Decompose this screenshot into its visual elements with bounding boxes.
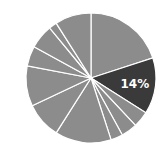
- pie-labels: 14%: [120, 77, 149, 91]
- slice-percent-label: 14%: [120, 77, 149, 91]
- pie-chart: 14%: [0, 0, 167, 148]
